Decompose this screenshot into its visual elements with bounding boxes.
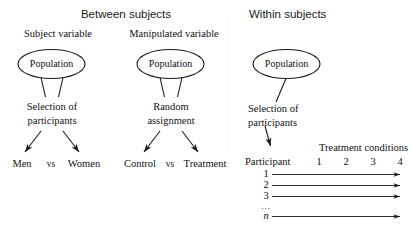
matrix-column-group-label: Treatment conditions bbox=[319, 143, 408, 154]
node-label-population-within-subjects: Population bbox=[265, 59, 308, 69]
outcome-women: Women bbox=[68, 159, 100, 170]
arrow-assignment-to-control bbox=[144, 131, 160, 152]
within-process-selection-of-line2: participants bbox=[248, 118, 297, 129]
participant-row-arrows bbox=[272, 175, 400, 217]
heading-between-subjects: Between subjects bbox=[81, 9, 171, 21]
matrix-column-header-2: 2 bbox=[343, 157, 348, 168]
subtitle-subject-variable: Subject variable bbox=[24, 29, 92, 40]
connector-vs-manipulated-variable: vs bbox=[166, 160, 174, 170]
heading-within-subjects: Within subjects bbox=[249, 9, 326, 21]
node-label-population-subject-variable: Population bbox=[30, 59, 73, 69]
arrow-selection-to-participant bbox=[265, 126, 271, 146]
matrix-column-header-1: 1 bbox=[316, 157, 321, 168]
node-label-population-manipulated-variable: Population bbox=[149, 59, 192, 69]
matrix-column-header-3: 3 bbox=[370, 157, 375, 168]
diagram-canvas: Between subjects Within subjects Subject… bbox=[0, 0, 412, 225]
outcome-treatment: Treatment bbox=[184, 159, 227, 170]
matrix-row-label-n: n bbox=[263, 211, 268, 222]
within-process-selection-of-line1: Selection of bbox=[248, 104, 298, 115]
matrix-row-label-3: 3 bbox=[263, 191, 268, 202]
outcome-men: Men bbox=[12, 159, 31, 170]
connector-vs-subject-variable: vs bbox=[47, 160, 55, 170]
connector-population-to-random-assignment bbox=[160, 78, 182, 98]
process-selection-of-line2: participants bbox=[28, 116, 77, 127]
process-selection-of-line1: Selection of bbox=[27, 102, 77, 113]
arrow-selection-to-women bbox=[63, 131, 79, 152]
outcome-control: Control bbox=[124, 159, 156, 170]
matrix-row-label-2: 2 bbox=[263, 180, 268, 191]
matrix-column-header-4: 4 bbox=[397, 157, 402, 168]
matrix-row-label-1: 1 bbox=[263, 169, 268, 180]
connector-population-to-selection-left bbox=[41, 78, 63, 98]
matrix-row-header: Participant bbox=[245, 157, 291, 168]
subtitle-manipulated-variable: Manipulated variable bbox=[129, 29, 219, 40]
connector-population-to-selection-within bbox=[276, 79, 286, 103]
arrow-assignment-to-treatment bbox=[182, 131, 198, 152]
arrow-selection-to-men bbox=[25, 131, 41, 152]
process-random-assignment-line1: Random bbox=[153, 102, 189, 113]
process-random-assignment-line2: assignment bbox=[147, 116, 194, 127]
